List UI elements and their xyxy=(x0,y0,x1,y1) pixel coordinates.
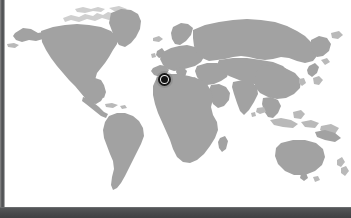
world-map-graphic xyxy=(5,0,351,205)
world-map-canvas[interactable] xyxy=(5,0,351,205)
selected-location-marker[interactable] xyxy=(156,71,173,88)
window-bottom-bar-inner xyxy=(0,208,351,218)
window-bottom-bar xyxy=(0,207,351,218)
marker-dot xyxy=(161,76,168,83)
map-viewport xyxy=(0,0,351,218)
